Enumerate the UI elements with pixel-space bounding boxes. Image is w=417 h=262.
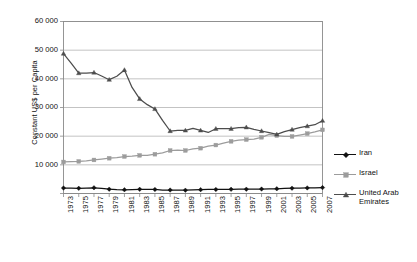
data-point-marker: [153, 152, 157, 156]
data-point-marker: [107, 187, 112, 192]
series-line-israel: [64, 130, 323, 162]
data-point-marker: [214, 143, 218, 147]
data-point-marker: [305, 186, 310, 191]
data-point-marker: [183, 188, 188, 193]
data-point-marker: [320, 118, 325, 122]
data-point-marker: [183, 149, 187, 153]
data-point-marker: [198, 187, 203, 192]
data-point-marker: [168, 188, 173, 193]
data-point-marker: [305, 132, 309, 136]
data-point-marker: [122, 68, 127, 72]
data-point-marker: [244, 187, 249, 192]
data-point-marker: [92, 158, 96, 162]
legend-label: Iran: [359, 148, 372, 157]
legend-item-israel[interactable]: Israel: [334, 168, 417, 179]
data-point-marker: [122, 188, 127, 193]
plot-area: [0, 0, 417, 262]
data-point-marker: [290, 135, 294, 139]
data-point-marker: [168, 149, 172, 153]
data-point-marker: [320, 185, 325, 190]
data-point-marker: [199, 146, 203, 150]
data-point-marker: [153, 187, 158, 192]
data-point-marker: [76, 186, 81, 191]
data-point-marker: [321, 128, 325, 132]
data-point-marker: [244, 138, 248, 142]
legend-item-united-arab-emirates[interactable]: United Arab Emirates: [334, 188, 417, 207]
data-point-marker: [92, 186, 97, 191]
legend-swatch-diamond-icon: [334, 149, 356, 159]
legend-swatch-square-icon: [334, 169, 356, 179]
legend-swatch-triangle-icon: [334, 189, 356, 199]
data-point-marker: [123, 155, 127, 159]
data-point-marker: [259, 187, 264, 192]
data-point-marker: [137, 187, 142, 192]
chart-legend: IranIsraelUnited Arab Emirates: [334, 148, 417, 216]
series-line-iran: [64, 188, 323, 191]
data-point-marker: [77, 160, 81, 164]
data-point-marker: [107, 156, 111, 160]
data-point-marker: [229, 139, 233, 143]
legend-label: Israel: [359, 168, 378, 177]
series-line-united-arab-emirates: [64, 54, 323, 135]
data-point-marker: [275, 187, 280, 192]
data-point-marker: [229, 187, 234, 192]
legend-item-iran[interactable]: Iran: [334, 148, 417, 159]
legend-label: United Arab Emirates: [359, 188, 399, 207]
data-point-marker: [290, 186, 295, 191]
data-point-marker: [214, 187, 219, 192]
data-point-marker: [61, 51, 66, 55]
chart-container: Constant US$ per Capita 60 00050 00040 0…: [0, 0, 417, 262]
data-point-marker: [138, 153, 142, 157]
data-point-marker: [260, 135, 264, 139]
data-point-marker: [62, 160, 66, 164]
data-point-marker: [61, 186, 66, 191]
